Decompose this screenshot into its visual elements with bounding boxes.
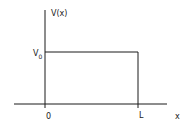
v0-label-sub: 0	[38, 53, 42, 60]
potential-diagram: V(x) V0 0 L x	[0, 0, 185, 127]
x-axis-label: x	[175, 112, 180, 121]
end-label: L	[139, 111, 144, 120]
y-axis-label: V(x)	[51, 9, 67, 18]
v0-label: V0	[33, 49, 42, 60]
origin-label: 0	[46, 112, 51, 121]
